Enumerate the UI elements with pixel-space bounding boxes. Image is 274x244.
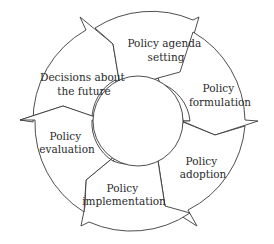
policy-cycle-diagram: Policy agenda setting Policy formulation…	[0, 0, 274, 244]
label-adoption: Policy adoption	[180, 155, 227, 180]
